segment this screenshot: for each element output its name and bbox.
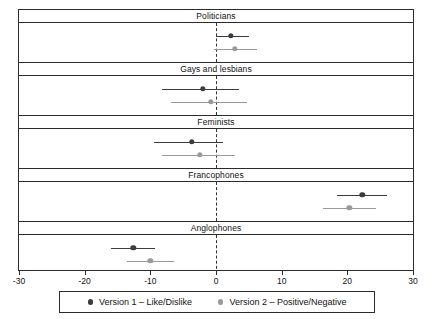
panel-strip-label: Politicians	[19, 10, 413, 23]
x-axis-tick	[347, 271, 348, 275]
panel-politicians: Politicians	[19, 10, 413, 62]
x-axis: -30-20-100102030	[18, 271, 414, 291]
panel-gays-and-lesbians: Gays and lesbians	[19, 62, 413, 115]
legend-marker-light-circle-icon	[218, 299, 223, 304]
point-estimate-marker	[200, 86, 205, 91]
panel-stack: PoliticiansGays and lesbiansFeministsFra…	[18, 9, 414, 271]
x-axis-tick-label: -10	[144, 276, 156, 286]
legend-label-version-1: Version 1 – Like/Dislike	[99, 297, 192, 307]
point-estimate-marker	[228, 33, 233, 38]
panel-strip-label: Gays and lesbians	[19, 63, 413, 76]
x-axis-tick	[413, 271, 414, 275]
point-estimate-marker	[197, 152, 202, 157]
x-axis-tick	[216, 271, 217, 275]
panel-strip-label: Anglophones	[19, 222, 413, 235]
x-axis-tick-label: 10	[277, 276, 286, 286]
legend-marker-dark-circle-icon	[88, 299, 93, 304]
panel-body	[19, 23, 413, 62]
x-axis-tick-label: -20	[79, 276, 91, 286]
panel-anglophones: Anglophones	[19, 221, 413, 274]
legend-item-version-1[interactable]: Version 1 – Like/Dislike	[88, 297, 192, 307]
zero-reference-line	[216, 235, 217, 274]
panel-strip-label: Feminists	[19, 116, 413, 129]
panel-body	[19, 235, 413, 274]
point-estimate-marker	[148, 258, 153, 263]
panel-body	[19, 182, 413, 221]
legend-item-version-2[interactable]: Version 2 – Positive/Negative	[218, 297, 346, 307]
x-axis-tick	[19, 271, 20, 275]
panel-body	[19, 129, 413, 168]
zero-reference-line	[216, 76, 217, 115]
zero-reference-line	[216, 23, 217, 62]
point-estimate-marker	[189, 139, 194, 144]
point-estimate-marker	[347, 205, 352, 210]
point-estimate-marker	[131, 245, 136, 250]
point-estimate-marker	[360, 192, 365, 197]
x-axis-tick-label: -30	[13, 276, 25, 286]
x-axis-tick-label: 20	[343, 276, 352, 286]
legend-label-version-2: Version 2 – Positive/Negative	[229, 297, 346, 307]
panel-francophones: Francophones	[19, 168, 413, 221]
panel-feminists: Feminists	[19, 115, 413, 168]
panel-body	[19, 76, 413, 115]
chart-legend: Version 1 – Like/Dislike Version 2 – Pos…	[59, 291, 375, 313]
x-axis-tick	[282, 271, 283, 275]
x-axis-tick-label: 30	[408, 276, 417, 286]
x-axis-tick	[85, 271, 86, 275]
x-axis-tick	[150, 271, 151, 275]
point-estimate-marker	[208, 99, 213, 104]
x-axis-tick-label: 0	[214, 276, 219, 286]
point-estimate-marker	[232, 46, 237, 51]
coefficient-plot: PoliticiansGays and lesbiansFeministsFra…	[0, 0, 433, 319]
zero-reference-line	[216, 182, 217, 221]
zero-reference-line	[216, 129, 217, 168]
panel-strip-label: Francophones	[19, 169, 413, 182]
